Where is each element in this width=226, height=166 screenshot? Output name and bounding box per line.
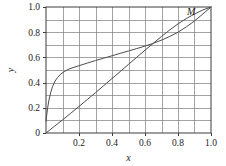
x-axis-title: x — [125, 152, 131, 163]
x-tick-label: 0.6 — [139, 138, 151, 148]
y-tick-label: 1.0 — [28, 2, 40, 12]
x-tick-label: 0.4 — [106, 138, 118, 148]
y-tick-label: 0.4 — [28, 78, 40, 88]
chart-canvas: 0.20.40.60.81.0 00.20.40.60.81.0 x y M — [0, 0, 226, 166]
y-tick-label: 0.2 — [28, 103, 40, 113]
y-tick-label: 0.6 — [28, 53, 40, 63]
y-tick-label: 0 — [35, 128, 40, 138]
chart-annotations: M — [186, 6, 196, 17]
x-tick-label: 0.2 — [73, 138, 85, 148]
chart-figure: 0.20.40.60.81.0 00.20.40.60.81.0 x y M — [0, 0, 226, 166]
annotation-label-m: M — [186, 6, 196, 17]
x-tick-label: 1.0 — [205, 138, 217, 148]
y-tick-label: 0.8 — [28, 28, 40, 38]
x-tick-label: 0.8 — [172, 138, 184, 148]
y-axis-title: y — [5, 67, 16, 73]
